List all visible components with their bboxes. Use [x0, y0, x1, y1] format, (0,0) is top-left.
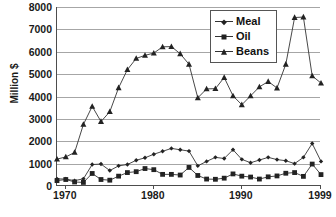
y-axis-tick-labels: 010002000300040005000600070008000 — [8, 0, 52, 217]
data-point-marker — [230, 93, 236, 99]
data-point-marker — [318, 80, 324, 86]
data-point-marker — [231, 172, 236, 177]
legend-label: Meal — [236, 16, 260, 27]
data-point-marker — [177, 51, 183, 57]
data-point-marker — [63, 154, 69, 160]
data-point-marker — [275, 174, 280, 179]
data-point-marker — [257, 177, 262, 182]
data-point-marker — [310, 162, 315, 167]
data-point-marker — [256, 84, 262, 90]
data-point-marker — [116, 164, 120, 168]
x-tick-mark — [153, 185, 154, 189]
data-point-marker — [283, 61, 289, 67]
data-point-marker — [143, 166, 148, 171]
data-point-marker — [195, 173, 200, 178]
data-point-marker — [160, 149, 164, 153]
data-point-marker — [309, 73, 315, 79]
data-point-marker — [151, 167, 156, 172]
data-point-marker — [283, 171, 288, 176]
x-tick-mark — [320, 185, 321, 189]
y-tick-label: 8000 — [12, 1, 52, 13]
x-axis-tick-labels: 1970198019901999 — [56, 189, 320, 209]
data-point-marker — [160, 172, 165, 177]
series-meal — [55, 141, 323, 183]
data-point-marker — [257, 158, 261, 162]
x-tick-label: 1990 — [218, 189, 264, 201]
data-point-marker — [319, 159, 323, 163]
series-canvas — [57, 7, 321, 186]
data-point-marker — [213, 155, 217, 159]
data-point-marker — [221, 74, 227, 80]
data-point-marker — [248, 161, 252, 165]
data-point-marker — [90, 162, 94, 166]
data-point-marker — [116, 85, 122, 91]
x-tick-label: 1999 — [297, 189, 336, 201]
data-point-marker — [80, 121, 86, 127]
data-point-marker — [169, 146, 173, 150]
legend-label: Oil — [236, 31, 251, 42]
legend-item-meal[interactable]: Meal — [215, 14, 269, 29]
series-beans — [54, 14, 324, 162]
data-point-marker — [265, 78, 271, 84]
y-tick-label: 3000 — [12, 113, 52, 125]
y-tick-label: 5000 — [12, 68, 52, 80]
legend-item-beans[interactable]: Beans — [215, 44, 269, 59]
data-point-marker — [63, 177, 68, 182]
data-point-marker — [107, 109, 113, 115]
data-point-marker — [301, 174, 306, 179]
legend: MealOilBeans — [210, 10, 277, 63]
y-tick-label: 6000 — [12, 46, 52, 58]
x-tick-label: 1980 — [130, 189, 176, 201]
diamond-marker-icon — [215, 16, 233, 27]
data-point-marker — [274, 85, 280, 91]
y-tick-label: 1000 — [12, 158, 52, 170]
data-point-marker — [196, 164, 200, 168]
data-point-marker — [266, 174, 271, 179]
data-point-marker — [151, 50, 157, 56]
data-point-marker — [168, 43, 174, 49]
data-point-marker — [178, 148, 182, 152]
square-marker-icon — [215, 31, 233, 42]
data-point-marker — [204, 177, 209, 182]
data-point-marker — [187, 165, 192, 170]
data-point-marker — [125, 162, 129, 166]
data-point-marker — [134, 169, 139, 174]
plot-area — [56, 7, 320, 186]
y-tick-label: 2000 — [12, 135, 52, 147]
data-point-marker — [99, 177, 104, 182]
data-point-marker — [55, 178, 60, 183]
data-point-marker — [152, 152, 156, 156]
data-point-marker — [107, 178, 112, 183]
legend-item-oil[interactable]: Oil — [215, 29, 269, 44]
data-point-marker — [89, 103, 95, 109]
data-point-marker — [292, 170, 297, 175]
data-point-marker — [134, 158, 138, 162]
x-tick-mark — [241, 185, 242, 189]
x-tick-label: 1970 — [42, 189, 88, 201]
data-point-marker — [125, 170, 130, 175]
data-point-marker — [213, 177, 218, 182]
data-point-marker — [90, 171, 95, 176]
data-point-marker — [187, 149, 191, 153]
data-point-marker — [266, 155, 270, 159]
series-oil — [55, 162, 324, 185]
data-point-marker — [204, 159, 208, 163]
data-point-marker — [81, 180, 86, 185]
legend-label: Beans — [236, 46, 269, 57]
data-point-marker — [310, 141, 314, 145]
series-line — [57, 17, 321, 159]
data-point-marker — [72, 149, 78, 155]
triangle-marker-icon — [215, 46, 233, 57]
data-point-marker — [178, 173, 183, 178]
data-point-marker — [275, 157, 279, 161]
data-point-marker — [248, 175, 253, 180]
y-tick-label: 7000 — [12, 23, 52, 35]
data-point-marker — [169, 172, 174, 177]
y-tick-label: 4000 — [12, 91, 52, 103]
data-point-marker — [284, 159, 288, 163]
data-point-marker — [143, 156, 147, 160]
data-point-marker — [116, 174, 121, 179]
data-point-marker — [72, 180, 77, 185]
data-point-marker — [222, 176, 227, 181]
